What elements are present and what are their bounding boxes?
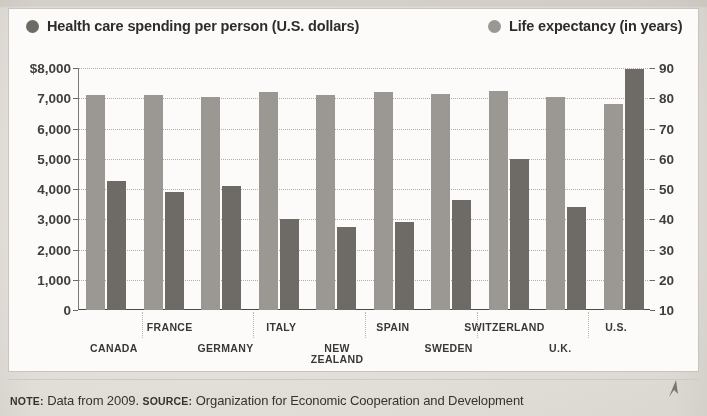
legend-label-spending: Health care spending per person (U.S. do… [47,18,359,34]
y-axis-right-tick-mark [650,98,655,99]
x-axis-separator [253,312,254,338]
y-axis-right-tick-mark [650,68,655,69]
y-axis-right-tick-mark [650,310,655,311]
bar-group [604,68,644,310]
x-axis-separator [365,312,366,338]
bar-health-spending [222,186,241,310]
x-axis-separator [142,312,143,338]
bar-group [201,68,241,310]
bar-group [316,68,356,310]
footnote-source-text: Organization for Economic Cooperation an… [192,393,523,408]
footnote-divider [8,379,699,380]
y-axis-right-tick-mark [650,280,655,281]
chart-legend: Health care spending per person (U.S. do… [8,8,699,48]
x-axis-label: CANADA [90,343,138,354]
x-axis-label: SPAIN [376,322,409,333]
x-axis-label: SWEDEN [425,343,473,354]
y-axis-right-tick-mark [650,189,655,190]
bar-life-expectancy [316,95,335,310]
bar-life-expectancy [489,91,508,310]
bar-life-expectancy [201,97,220,310]
legend-marker-life-circle-icon [488,20,501,33]
y-axis-left-tick-label: 3,000 [37,212,78,227]
legend-item-life-expectancy: Life expectancy (in years) [488,18,682,34]
bar-life-expectancy [144,95,163,310]
bar-group [546,68,586,310]
y-axis-left-tick-label: 7,000 [37,91,78,106]
page-corner-mark-icon [663,378,681,400]
bar-life-expectancy [259,92,278,310]
bar-group [144,68,184,310]
x-axis-label: GERMANY [197,343,253,354]
plot-area: $8,0007,0006,0005,0004,0003,0002,0001,00… [78,68,650,310]
y-axis-left-tick-label: 4,000 [37,182,78,197]
bar-health-spending [280,219,299,310]
bar-health-spending [107,181,126,310]
x-axis-label: U.S. [605,322,627,333]
bar-life-expectancy [374,92,393,310]
footnote: NOTE: Data from 2009. SOURCE: Organizati… [10,393,650,408]
y-axis-right-tick-mark [650,219,655,220]
bar-health-spending [165,192,184,310]
legend-marker-spending-circle-icon [26,20,39,33]
y-axis-right-tick-mark [650,159,655,160]
legend-label-life-expectancy: Life expectancy (in years) [509,18,682,34]
footnote-note-text: Data from 2009. [44,393,143,408]
bar-life-expectancy [604,104,623,310]
bar-life-expectancy [431,94,450,310]
legend-item-spending: Health care spending per person (U.S. do… [26,18,359,34]
x-axis-label: U.K. [549,343,571,354]
y-axis-right-tick-mark [650,250,655,251]
x-axis-label: FRANCE [147,322,193,333]
bar-health-spending [625,69,644,310]
footnote-source-keyword: SOURCE: [142,395,192,407]
x-axis-separator [477,312,478,338]
y-axis-left-tick-label: $8,000 [30,61,78,76]
bar-life-expectancy [86,95,105,310]
bar-health-spending [567,207,586,310]
x-axis-label: NEW ZEALAND [311,343,364,365]
bar-group [259,68,299,310]
y-axis-left-tick-label: 1,000 [37,272,78,287]
y-axis-left-tick-label: 2,000 [37,242,78,257]
y-axis-right-tick-mark [650,129,655,130]
footnote-note-keyword: NOTE: [10,395,44,407]
bar-health-spending [337,227,356,310]
y-axis-left-tick-mark [73,310,78,311]
bar-group [374,68,414,310]
y-axis-left-tick-label: 5,000 [37,151,78,166]
x-axis-label: ITALY [266,322,296,333]
bar-group [489,68,529,310]
bar-group [86,68,126,310]
x-axis-labels: CANADAFRANCEGERMANYITALYNEW ZEALANDSPAIN… [78,312,650,362]
bar-groups [78,68,650,310]
x-axis-separator [588,312,589,338]
y-axis-left-tick-label: 6,000 [37,121,78,136]
bar-health-spending [452,200,471,310]
bar-health-spending [510,159,529,310]
bar-life-expectancy [546,97,565,310]
bar-group [431,68,471,310]
bar-health-spending [395,222,414,310]
